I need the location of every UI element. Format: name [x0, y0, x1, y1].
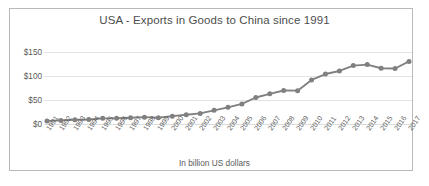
y-tick-label: $150	[24, 48, 42, 57]
axis-footnote: In billion US dollars	[0, 158, 429, 168]
y-tick-label: $0	[33, 120, 42, 129]
gridline-100	[44, 76, 412, 77]
plot-area	[44, 52, 412, 124]
gridline-50	[44, 100, 412, 101]
y-tick-label: $50	[28, 96, 42, 105]
y-tick-label: $100	[24, 72, 42, 81]
gridline-150	[44, 52, 412, 53]
